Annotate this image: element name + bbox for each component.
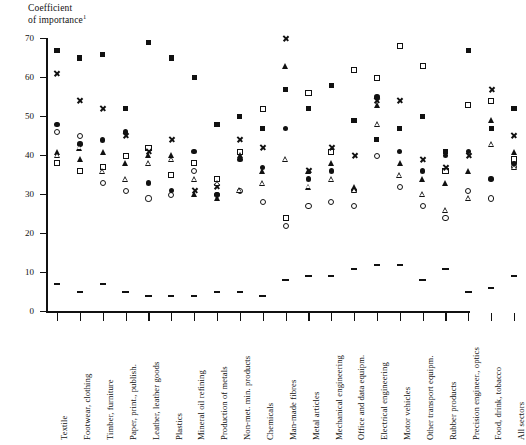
dash-marker-icon (442, 268, 448, 270)
open-circle-marker-icon (191, 168, 197, 174)
x-axis-category-label: Man-made fibres (289, 380, 298, 440)
cross-marker-icon (259, 144, 266, 151)
open-square-marker-icon (123, 153, 129, 159)
open-triangle-marker-icon (54, 152, 60, 158)
x-axis-category-label: Mechanical engineering (335, 355, 344, 440)
dash-marker-icon (214, 291, 220, 293)
open-triangle-marker-icon (305, 184, 311, 190)
x-axis-category-label: Footwear, clothing (83, 374, 92, 440)
dash-marker-icon (282, 279, 288, 281)
filled-square-marker-icon (169, 55, 174, 60)
x-axis-category-label: Other transport equipm. (426, 355, 435, 440)
dash-marker-icon (259, 295, 265, 297)
x-axis-category-label: Non-met. min. products (243, 356, 252, 440)
open-square-marker-icon (305, 90, 311, 96)
y-axis-tick-label: 0 (14, 307, 34, 316)
filled-triangle-marker-icon (214, 195, 220, 201)
filled-square-marker-icon (146, 40, 151, 45)
open-square-marker-icon (328, 149, 334, 155)
filled-triangle-marker-icon (419, 176, 425, 182)
dash-marker-icon (168, 295, 174, 297)
dash-marker-icon (397, 264, 403, 266)
filled-triangle-marker-icon (397, 160, 403, 166)
open-circle-marker-icon (374, 153, 380, 159)
open-square-marker-icon (100, 164, 106, 170)
open-circle-marker-icon (351, 203, 357, 209)
open-circle-marker-icon (420, 203, 426, 209)
cross-marker-icon (282, 35, 289, 42)
filled-square-marker-icon (100, 52, 105, 57)
filled-square-marker-icon (77, 55, 82, 60)
dash-marker-icon (465, 291, 471, 293)
cross-marker-icon (236, 137, 243, 144)
cross-marker-icon (396, 98, 403, 105)
x-axis-tick (240, 313, 241, 321)
filled-circle-marker-icon (420, 168, 425, 173)
filled-square-marker-icon (374, 137, 379, 142)
y-axis-tick-label: 60 (14, 73, 34, 82)
x-axis-category-label: Office and data equipm. (357, 355, 366, 440)
y-axis-tick (40, 194, 47, 195)
open-triangle-marker-icon (76, 145, 82, 151)
x-axis-tick (423, 313, 424, 321)
open-circle-marker-icon (283, 223, 289, 229)
open-square-marker-icon (488, 98, 494, 104)
open-circle-marker-icon (145, 195, 151, 201)
cross-marker-icon (488, 86, 495, 93)
open-triangle-marker-icon (259, 180, 265, 186)
x-axis-tick (468, 313, 469, 321)
dash-marker-icon (237, 291, 243, 293)
open-triangle-marker-icon (396, 172, 402, 178)
x-axis-tick (217, 313, 218, 321)
x-axis-tick (126, 313, 127, 321)
open-square-marker-icon (397, 43, 403, 49)
dash-marker-icon (305, 275, 311, 277)
x-axis-category-label: Metal articles (312, 392, 321, 440)
cross-marker-icon (511, 133, 518, 140)
filled-circle-marker-icon (374, 94, 379, 99)
x-axis-tick (308, 313, 309, 321)
filled-triangle-marker-icon (145, 152, 151, 158)
open-circle-marker-icon (54, 129, 60, 135)
cross-marker-icon (99, 105, 106, 112)
dash-marker-icon (77, 291, 83, 293)
filled-square-marker-icon (466, 48, 471, 53)
open-circle-marker-icon (100, 180, 106, 186)
x-axis-category-label: Food, drink, tobacco (494, 367, 503, 440)
open-square-marker-icon (442, 168, 448, 174)
dash-marker-icon (54, 283, 60, 285)
y-axis-tick (40, 311, 47, 312)
open-square-marker-icon (54, 160, 60, 166)
filled-circle-marker-icon (397, 149, 402, 154)
x-axis-category-label: Textile (60, 416, 69, 440)
filled-triangle-marker-icon (374, 102, 380, 108)
open-circle-marker-icon (328, 199, 334, 205)
open-circle-marker-icon (442, 215, 448, 221)
filled-square-marker-icon (351, 118, 356, 123)
open-circle-marker-icon (168, 192, 174, 198)
x-axis-tick (263, 313, 264, 321)
filled-triangle-marker-icon (305, 168, 311, 174)
dash-marker-icon (328, 275, 334, 277)
open-square-marker-icon (237, 149, 243, 155)
y-axis-tick (40, 233, 47, 234)
open-triangle-marker-icon (328, 176, 334, 182)
open-square-marker-icon (511, 156, 517, 162)
x-axis-category-label: Motor vehicles (403, 387, 412, 440)
open-triangle-marker-icon (465, 195, 471, 201)
open-triangle-marker-icon (168, 156, 174, 162)
open-circle-marker-icon (488, 195, 494, 201)
filled-circle-marker-icon (146, 180, 151, 185)
y-axis-tick-label: 20 (14, 229, 34, 238)
filled-circle-marker-icon (123, 129, 128, 134)
x-axis-tick (57, 313, 58, 321)
open-triangle-marker-icon (488, 141, 494, 147)
plot-area: 010203040506070 (0, 0, 499, 330)
filled-square-marker-icon (214, 122, 219, 127)
x-axis-tick (103, 313, 104, 321)
x-axis-category-label: Rubber products (449, 381, 458, 440)
filled-square-marker-icon (237, 114, 242, 119)
filled-circle-marker-icon (329, 168, 334, 173)
open-square-marker-icon (145, 145, 151, 151)
